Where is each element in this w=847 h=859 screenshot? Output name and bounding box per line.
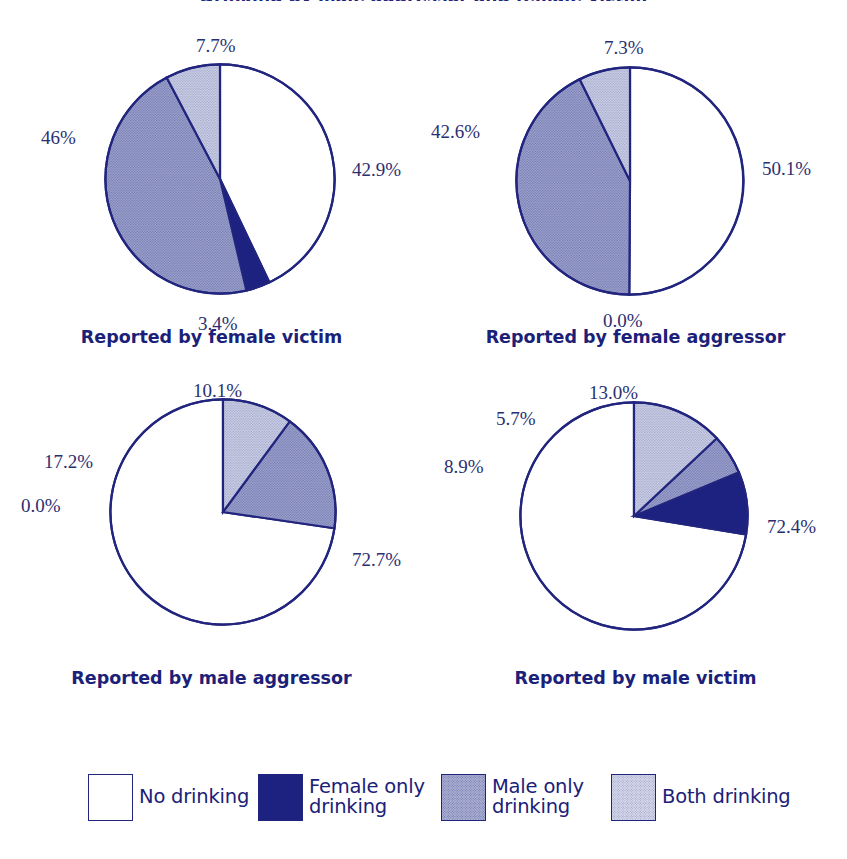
pct-label-both-c4: 13.0% [589,383,638,402]
pct-label-no-drinking-c3: 72.7% [352,550,401,569]
pie-slice-no-drinking[interactable] [629,67,743,294]
pct-label-male-only-c4: 5.7% [496,409,536,428]
legend-swatch-female-only [258,774,303,821]
pct-label-both-c2: 7.3% [604,38,644,57]
pie-svg-female-aggressor [515,66,745,296]
pie-svg-female-victim [104,63,336,295]
legend: No drinking Female only drinking Male on… [0,760,847,840]
legend-label-both: Both drinking [662,787,791,807]
legend-label-no-drinking: No drinking [139,787,249,807]
pie-svg-male-victim [519,401,749,631]
pct-label-no-drinking-c2: 50.1% [762,159,811,178]
pie-chart-figure: Drinking by male aggressor and female vi… [0,0,847,859]
pie-panel-female-aggressor [515,66,745,296]
pct-label-no-drinking-c1: 42.9% [352,160,401,179]
legend-item-both[interactable]: Both drinking [611,773,791,821]
pct-label-male-only-c3: 17.2% [44,452,93,471]
pct-label-female-only-c3: 0.0% [21,496,61,515]
pct-label-male-only-c1: 46% [41,128,76,147]
legend-swatch-male-only [441,774,486,821]
pct-label-no-drinking-c4: 72.4% [767,517,816,536]
legend-swatch-both [611,774,656,821]
pct-label-both-c1: 7.7% [196,36,236,55]
pie-caption-male-victim: Reported by male victim [212,668,847,688]
pct-label-both-c3: 10.1% [193,381,242,400]
legend-item-no-drinking[interactable]: No drinking [88,773,249,821]
figure-title: Drinking by male aggressor and female vi… [0,0,847,1]
legend-label-female-only: Female only drinking [309,777,425,817]
pct-label-male-only-c2: 42.6% [431,122,480,141]
pie-svg-male-aggressor [109,398,337,626]
pie-panel-female-victim [104,63,336,295]
legend-label-male-only: Male only drinking [492,777,584,817]
pct-label-female-only-c4: 8.9% [444,457,484,476]
legend-item-female-only[interactable]: Female only drinking [258,773,425,821]
pie-panel-male-victim [519,401,749,631]
pie-panel-male-aggressor [109,398,337,626]
legend-item-male-only[interactable]: Male only drinking [441,773,584,821]
pct-label-female-only-c2: 0.0% [603,311,643,330]
legend-swatch-no-drinking [88,774,133,821]
pct-label-female-only-c1: 3.4% [198,314,238,333]
pie-caption-female-aggressor: Reported by female aggressor [212,327,847,347]
